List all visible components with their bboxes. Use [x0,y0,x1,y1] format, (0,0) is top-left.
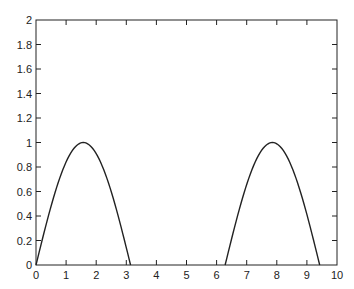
y-tick-label: 1.8 [17,39,32,51]
y-tick-label: 1 [26,137,32,149]
x-tick-label: 10 [331,269,343,281]
x-tick-label: 0 [33,269,39,281]
chart: 012345678910 00.20.40.60.811.21.41.61.82 [0,0,354,289]
y-tick-label: 0.8 [17,161,32,173]
y-tick-label: 2 [26,14,32,26]
x-tick-label: 4 [153,269,159,281]
y-tick-label: 0 [26,259,32,271]
x-tick-label: 6 [214,269,220,281]
x-tick-label: 8 [274,269,280,281]
y-tick-label: 1.4 [17,88,32,100]
y-tick-label: 0.4 [17,210,32,222]
x-tick-label: 2 [93,269,99,281]
y-tick-label: 1.6 [17,63,32,75]
y-tick-label: 0.2 [17,235,32,247]
x-tick-label: 1 [63,269,69,281]
x-tick-label: 3 [123,269,129,281]
x-tick-label: 9 [304,269,310,281]
y-tick-label: 1.2 [17,112,32,124]
y-tick-label: 0.6 [17,186,32,198]
x-tick-label: 5 [183,269,189,281]
x-tick-label: 7 [244,269,250,281]
